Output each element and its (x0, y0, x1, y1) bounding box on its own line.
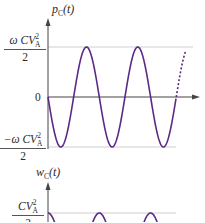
cv-symbol: CV (18, 200, 33, 212)
zero-tick-label: 0 (35, 91, 41, 103)
energy-y-axis-arrow-icon (46, 182, 51, 190)
upper-tick-numerator: ω CV2A (4, 35, 46, 50)
y-axis-arrow-icon (46, 18, 51, 26)
lower-tick-numerator: −ω CV2A (0, 134, 46, 149)
energy-axis-argument: (t) (49, 165, 60, 179)
energy-axis-label: wC(t) (36, 166, 60, 178)
omega-symbol: ω (10, 34, 18, 46)
subscript: A (35, 40, 40, 49)
power-axis-label: pC(t) (52, 3, 74, 15)
lower-tick-denominator: 2 (0, 149, 46, 163)
lower-tick-label: −ω CV2A 2 (0, 134, 46, 162)
energy-tick-numerator: CV2A (12, 201, 44, 216)
cv-symbol: CV (21, 34, 36, 46)
subscript: A (37, 139, 42, 148)
energy-axis-symbol: w (36, 165, 44, 179)
subscript: A (33, 206, 38, 215)
neg-omega-symbol: −ω (4, 133, 20, 145)
energy-tick-denominator: 2 (12, 216, 44, 223)
power-curve-continuation (176, 51, 186, 97)
upper-tick-denominator: 2 (4, 50, 46, 64)
energy-tick-label: CV2A 2 (12, 201, 44, 222)
cv-symbol: CV (22, 133, 37, 145)
energy-curve (48, 213, 176, 222)
upper-tick-label: ω CV2A 2 (4, 35, 46, 63)
energy-plot (46, 182, 177, 222)
power-axis-argument: (t) (63, 2, 74, 16)
power-plot (46, 18, 201, 149)
x-axis-arrow-icon (192, 95, 200, 100)
